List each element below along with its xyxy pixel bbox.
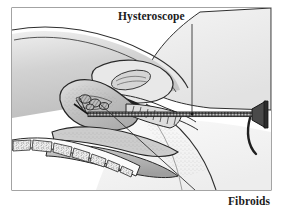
label-fibroids: Fibroids	[228, 195, 270, 207]
anatomy-figure	[0, 0, 282, 219]
illustration-canvas: Hysteroscope Fibroids	[0, 0, 282, 219]
hysteroscope-leader-endpoint	[191, 113, 194, 116]
label-hysteroscope: Hysteroscope	[118, 10, 185, 22]
